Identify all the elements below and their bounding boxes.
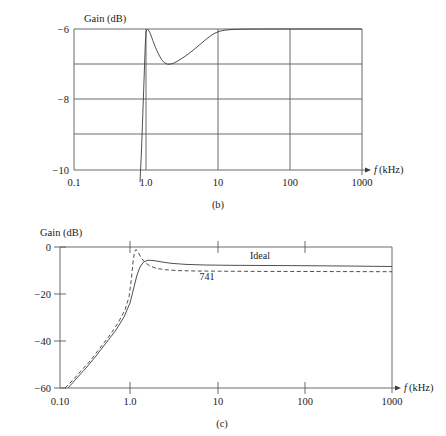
panel-b-xtick-1: 1.0	[139, 177, 152, 188]
panel-b-xtick-0: 0.1	[67, 177, 80, 188]
panel-c-ideal-curve	[65, 250, 392, 389]
panel-b-gridlines	[74, 29, 368, 175]
panel-c-x-axis-arrow	[395, 386, 401, 391]
panel-c-svg: Gain (dB)	[0, 215, 446, 436]
panel-b-ytick-0: −6	[58, 24, 69, 35]
panel-b: Gain (dB) −6 −8 −10	[0, 0, 446, 215]
panel-b-svg: Gain (dB) −6 −8 −10	[0, 0, 446, 215]
panel-c-ytick-3: −60	[35, 383, 51, 394]
panel-c-x-axis-title: f(kHz)	[404, 382, 434, 394]
panel-c-xtick-1: 1.0	[123, 396, 136, 407]
panel-c-axes	[60, 247, 398, 393]
panel-c-741-annotation: 741	[200, 271, 215, 282]
panel-c-ideal-annotation: Ideal	[250, 250, 270, 261]
panel-b-x-axis-title: f(kHz)	[374, 164, 404, 176]
panel-b-xtick-3: 100	[282, 177, 298, 188]
panel-c-xtick-0: 0.10	[51, 396, 69, 407]
panel-b-ytick-2: −10	[53, 165, 69, 176]
panel-c-x-axis-title-unit: (kHz)	[409, 382, 434, 394]
panel-b-x-axis-arrow	[365, 168, 371, 173]
panel-c-label: (c)	[216, 418, 228, 430]
panel-b-xtick-2: 10	[213, 177, 224, 188]
figure-root: Gain (dB) −6 −8 −10	[0, 0, 446, 436]
panel-c-xtick-4: 1000	[382, 396, 403, 407]
panel-c-xtick-2: 10	[213, 396, 224, 407]
panel-c-741-curve	[68, 260, 392, 388]
panel-b-ytick-1: −8	[58, 94, 69, 105]
panel-c-ytick-1: −20	[35, 289, 51, 300]
panel-c-y-axis-title: Gain (dB)	[40, 227, 83, 239]
panel-c-ytick-0: 0	[46, 242, 51, 253]
panel-b-y-axis-title: Gain (dB)	[84, 13, 127, 25]
panel-c: Gain (dB)	[0, 215, 446, 436]
panel-b-label: (b)	[212, 199, 225, 211]
panel-c-ytick-2: −40	[35, 336, 51, 347]
panel-b-curve	[140, 29, 362, 182]
panel-b-x-axis-title-unit: (kHz)	[379, 164, 404, 176]
panel-b-xtick-4: 1000	[352, 177, 373, 188]
panel-c-xtick-3: 100	[297, 396, 313, 407]
